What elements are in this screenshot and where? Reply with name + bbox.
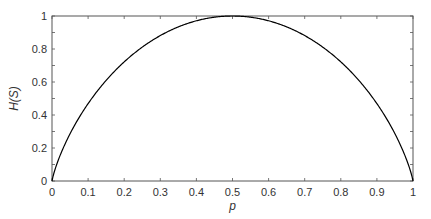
axis-ticks — [52, 16, 413, 181]
x-tick-label: 0.8 — [333, 186, 348, 198]
x-tick-labels: 00.10.20.30.40.50.60.70.80.91 — [49, 186, 416, 198]
entropy-curve — [52, 16, 413, 181]
y-tick-label: 0.2 — [32, 142, 47, 154]
entropy-chart: 00.10.20.30.40.50.60.70.80.91 00.20.40.6… — [0, 0, 431, 219]
x-tick-label: 0.4 — [189, 186, 204, 198]
y-tick-label: 0.6 — [32, 76, 47, 88]
x-tick-label: 1 — [410, 186, 416, 198]
x-tick-label: 0.1 — [80, 186, 95, 198]
x-tick-label: 0.3 — [153, 186, 168, 198]
y-axis-label: H(S) — [7, 86, 21, 111]
x-tick-label: 0.9 — [369, 186, 384, 198]
x-tick-label: 0.6 — [261, 186, 276, 198]
x-tick-label: 0.5 — [225, 186, 240, 198]
y-tick-label: 0.8 — [32, 43, 47, 55]
y-tick-label: 0.4 — [32, 109, 47, 121]
y-tick-label: 0 — [41, 175, 47, 187]
y-tick-label: 1 — [41, 10, 47, 22]
y-tick-labels: 00.20.40.60.81 — [32, 10, 47, 187]
x-tick-label: 0.7 — [297, 186, 312, 198]
x-axis-label: p — [228, 199, 236, 213]
x-tick-label: 0 — [49, 186, 55, 198]
x-tick-label: 0.2 — [117, 186, 132, 198]
plot-frame — [52, 16, 413, 181]
